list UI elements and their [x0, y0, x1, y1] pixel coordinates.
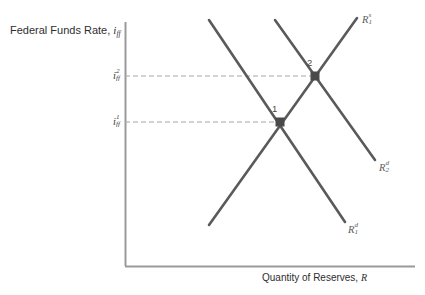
y-tick-label-i-ff-1: i1ff	[78, 114, 120, 128]
equilibrium-point-2-marker	[311, 72, 320, 81]
figure-canvas: Federal Funds Rate, iff Quantity of Rese…	[0, 0, 425, 295]
curve-label-reserve-demand-2: Rd2	[379, 160, 389, 174]
y-tick-label-i-ff-2: i2ff	[78, 68, 120, 82]
curve-label-rd2-subscript: 2	[385, 167, 389, 174]
tick-1-subscript: ff	[116, 121, 120, 128]
y-axis-title: Federal Funds Rate, iff	[10, 25, 121, 38]
equilibrium-point-1-marker	[276, 118, 285, 127]
x-axis-title-text: Quantity of Reserves,	[262, 272, 361, 283]
y-axis-title-subscript: ff	[116, 29, 120, 38]
x-axis-title: Quantity of Reserves, R	[262, 273, 367, 283]
curve-label-rs1-subscript: 1	[368, 19, 372, 26]
y-axis-title-text: Federal Funds Rate,	[10, 24, 113, 36]
tick-2-subscript: ff	[116, 75, 120, 82]
tick-2-supsub: 2ff	[116, 68, 120, 82]
diagram-svg	[0, 0, 425, 295]
equilibrium-point-1-label: 1	[272, 104, 277, 114]
x-axis-title-variable: R	[361, 272, 367, 283]
equilibrium-point-2-label: 2	[307, 58, 312, 68]
tick-1-supsub: 1ff	[116, 114, 120, 128]
curve-label-rs1-supsub: s1	[368, 12, 372, 26]
curve-label-reserve-supply-1: Rs1	[362, 12, 372, 26]
curve-label-reserve-demand-1: Rd1	[348, 222, 358, 236]
curve-label-rd1-subscript: 1	[354, 229, 358, 236]
curve-label-rd1-supsub: d1	[354, 222, 358, 236]
curve-label-rd2-supsub: d2	[385, 160, 389, 174]
